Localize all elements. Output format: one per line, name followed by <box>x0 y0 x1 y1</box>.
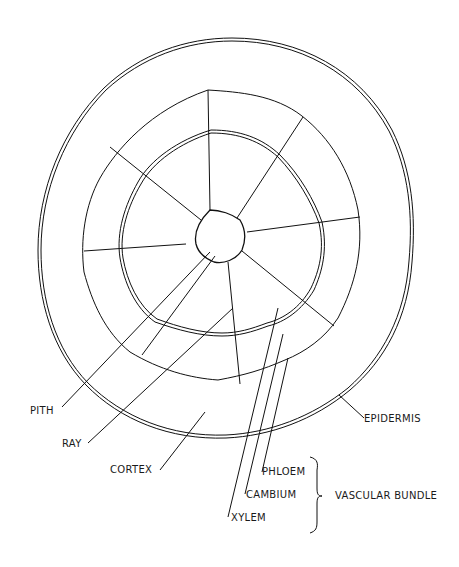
pith-leader-2 <box>142 256 215 355</box>
epidermis-leader <box>339 395 364 418</box>
ray-leader <box>88 308 233 443</box>
phloem-leader <box>262 358 288 472</box>
ray-line <box>242 251 334 326</box>
label-xylem: XYLEM <box>231 512 266 523</box>
label-epidermis: EPIDERMIS <box>364 413 421 424</box>
label-pith: PITH <box>30 405 54 416</box>
ray-line <box>228 262 240 384</box>
label-vascular-bundle: VASCULAR BUNDLE <box>335 490 437 501</box>
ray-line <box>84 244 186 251</box>
cortex-leader <box>160 412 205 470</box>
label-ray: RAY <box>62 438 82 449</box>
label-phloem: PHLOEM <box>262 466 305 477</box>
ray-line <box>247 217 360 232</box>
stem-cross-section-diagram: PITH RAY CORTEX EPIDERMIS PHLOEM CAMBIUM… <box>0 0 459 567</box>
pith-leader <box>62 252 210 407</box>
vascular-bundle-brace <box>310 457 322 533</box>
leader-lines <box>62 252 364 517</box>
ray-line <box>237 117 303 218</box>
label-cambium: CAMBIUM <box>246 489 296 500</box>
ray-line <box>208 90 210 210</box>
label-cortex: CORTEX <box>110 464 152 475</box>
ray-line <box>110 147 201 220</box>
cambium-ring <box>119 130 324 336</box>
